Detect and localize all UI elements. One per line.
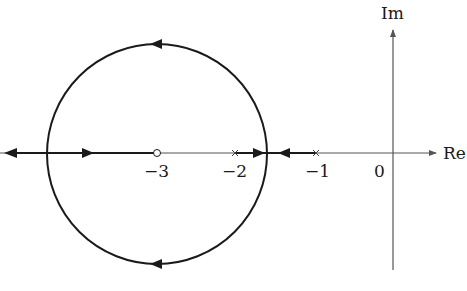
real-axis-label: Re: [443, 143, 466, 163]
arrow-left-end-icon: [4, 148, 17, 158]
arrow-from-pole2-icon: [253, 148, 265, 158]
tick-label-minus2: −2: [222, 161, 247, 181]
zero-marker-icon: [154, 150, 161, 157]
arrow-toward-zero-icon: [82, 148, 94, 158]
arrow-from-pole1-icon: [278, 148, 290, 158]
root-locus-diagram: −3 −2 −1 0 Re Im: [0, 0, 467, 291]
imag-axis-label: Im: [381, 3, 404, 23]
tick-label-minus1: −1: [305, 161, 330, 181]
arrow-top-circle-icon: [150, 39, 162, 49]
tick-label-minus3: −3: [144, 161, 169, 181]
origin-label: 0: [374, 161, 385, 181]
arrow-bottom-circle-icon: [150, 259, 162, 269]
